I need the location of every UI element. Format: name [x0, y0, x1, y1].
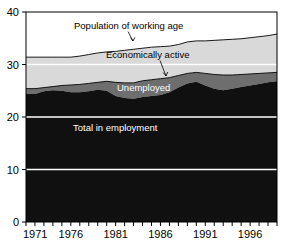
annotation-label-economically-active: Economically active — [106, 49, 189, 60]
x-tick-label-1991: 1991 — [193, 228, 217, 240]
employment-area-chart: 010203040 197119761981198619911996 Popul… — [0, 0, 283, 241]
x-tick-label-1971: 1971 — [23, 228, 47, 240]
y-tick-label-10: 10 — [7, 164, 19, 176]
x-tick-label-1996: 1996 — [238, 228, 262, 240]
y-tick-label-20: 20 — [7, 111, 19, 123]
y-tick-label-30: 30 — [7, 59, 19, 71]
x-tick-label-1981: 1981 — [103, 228, 127, 240]
chart-canvas: 010203040 197119761981198619911996 Popul… — [0, 0, 283, 241]
x-tick-label-1986: 1986 — [148, 228, 172, 240]
annotation-total-in-employment: Total in employment — [73, 122, 158, 133]
annotation-unemployed: Unemployed — [117, 82, 170, 93]
annotation-label-unemployed: Unemployed — [117, 82, 170, 93]
x-tick-label-1976: 1976 — [59, 228, 83, 240]
y-tick-label-40: 40 — [7, 6, 19, 18]
band-total-in-employment — [26, 81, 277, 222]
annotation-label-total-in-employment: Total in employment — [73, 122, 158, 133]
annotation-label-population-of-working-age: Population of working age — [74, 20, 183, 31]
y-tick-label-0: 0 — [13, 216, 19, 228]
